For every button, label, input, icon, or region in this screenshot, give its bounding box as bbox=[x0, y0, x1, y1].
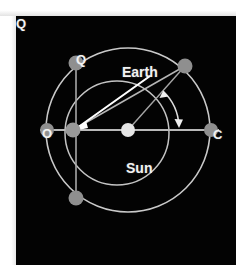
earth-leader-line bbox=[77, 76, 150, 128]
inner-orbit-circle bbox=[65, 81, 169, 185]
point-upper-right-dot bbox=[178, 59, 193, 74]
sun-label: Sun bbox=[126, 160, 152, 176]
earth-label: Earth bbox=[122, 64, 158, 80]
diagram-plate: Earth Sun O C Q Q bbox=[16, 16, 236, 265]
page-margin-top bbox=[0, 0, 236, 16]
point-q-top-label: Q bbox=[76, 52, 86, 67]
point-o-label: O bbox=[42, 126, 52, 141]
angle-arrowhead-lower bbox=[175, 119, 184, 128]
sun-dot bbox=[121, 123, 135, 137]
earth-hub-dot bbox=[66, 123, 81, 138]
point-q-bottom-label: Q bbox=[16, 16, 26, 31]
point-c-label: C bbox=[213, 127, 222, 142]
point-q-bottom-dot bbox=[69, 191, 84, 206]
figure-canvas: Earth Sun O C Q Q bbox=[0, 0, 236, 265]
page-margin-left bbox=[0, 0, 16, 265]
